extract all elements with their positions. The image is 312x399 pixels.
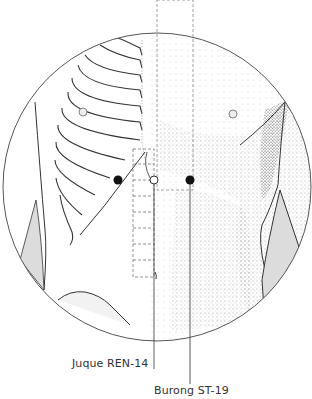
left-nipple: [79, 108, 87, 116]
xiphoid-curve: [146, 152, 150, 178]
burong-label: Burong ST-19: [154, 384, 229, 397]
torso-illustration: [5, 30, 312, 399]
burong-left-point: [114, 176, 123, 185]
costal-margin: [80, 152, 145, 235]
right-nipple: [229, 110, 237, 118]
left-hip: [58, 292, 130, 325]
sternum-edge: [142, 40, 145, 160]
juque-point: [150, 176, 158, 184]
juque-label: Juque REN-14: [72, 357, 148, 370]
abdomen-stipple: [170, 190, 252, 330]
burong-right-point: [186, 176, 195, 185]
acupuncture-diagram: [0, 0, 312, 399]
